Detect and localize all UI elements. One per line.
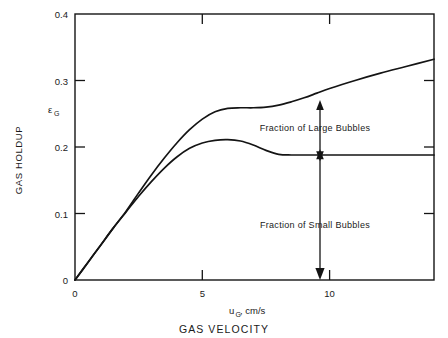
epsilon-subscript-g: G xyxy=(54,110,59,117)
annotation-small-bubbles: Fraction of Small Bubbles xyxy=(260,149,370,280)
x-tick-label-0: 0 xyxy=(72,288,77,299)
y-axis-symbol: ε G xyxy=(48,104,59,117)
y-axis-title: GAS HOLDUP xyxy=(13,126,24,194)
epsilon-symbol: ε xyxy=(48,104,53,115)
data-curves xyxy=(75,59,434,280)
arrow-head-down-small xyxy=(315,268,324,280)
x-axis-units: , cm/s xyxy=(240,305,266,316)
plot-frame xyxy=(75,14,434,280)
y-tick-label-0.3: 0.3 xyxy=(55,76,68,87)
gas-holdup-chart: 0.4 0.3 0.2 0.1 0 0 5 10 xyxy=(0,0,448,338)
y-tick-label-0.4: 0.4 xyxy=(55,9,68,20)
y-tick-label-0.2: 0.2 xyxy=(55,142,68,153)
x-axis-top-ticks xyxy=(202,14,329,24)
x-axis-tick-labels: 0 5 10 xyxy=(72,288,335,299)
y-tick-label-0: 0 xyxy=(63,275,68,286)
x-axis-variable-label: u G , cm/s xyxy=(229,305,266,318)
x-axis-title: GAS VELOCITY xyxy=(179,323,269,335)
annotation-large-bubbles: Fraction of Large Bubbles xyxy=(260,100,371,161)
x-tick-label-10: 10 xyxy=(324,288,335,299)
curve-total-gas-holdup xyxy=(75,59,434,280)
x-tick-label-5: 5 xyxy=(200,288,205,299)
chart-figure: 0.4 0.3 0.2 0.1 0 0 5 10 xyxy=(0,0,448,338)
annotation-label-large-bubbles: Fraction of Large Bubbles xyxy=(260,123,371,133)
curve-small-bubble-holdup xyxy=(75,140,434,280)
y-axis-tick-labels: 0.4 0.3 0.2 0.1 0 xyxy=(55,9,68,286)
y-axis-ticks xyxy=(75,81,85,214)
x-axis-ticks xyxy=(202,270,329,280)
y-tick-label-0.1: 0.1 xyxy=(55,209,68,220)
arrow-head-up-large xyxy=(316,100,324,110)
annotation-label-small-bubbles: Fraction of Small Bubbles xyxy=(260,220,370,230)
y-axis-right-ticks xyxy=(424,81,434,214)
x-axis-var-u: u xyxy=(229,305,234,316)
